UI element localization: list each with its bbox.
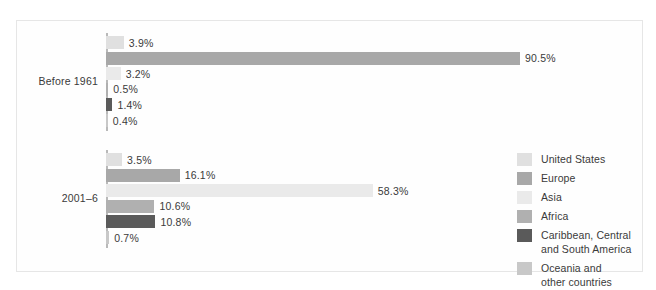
category-label: Before 1961 (17, 75, 98, 87)
bar (106, 67, 121, 80)
bar-value-label: 0.5% (113, 83, 138, 95)
bar (106, 184, 373, 197)
bar-value-label: 1.4% (117, 99, 142, 111)
bar-value-label: 0.7% (114, 232, 139, 244)
bar-value-label: 90.5% (525, 52, 556, 64)
bar-row: 1.4% (106, 98, 626, 111)
legend-item[interactable]: Oceania and other countries (517, 261, 656, 289)
bar (106, 153, 122, 166)
legend-swatch-icon (517, 229, 532, 242)
bar (106, 169, 180, 182)
legend-swatch-icon (517, 153, 532, 166)
legend-item[interactable]: Caribbean, Central and South America (517, 228, 656, 256)
legend-label: Oceania and other countries (541, 261, 612, 289)
legend-label: Africa (541, 209, 568, 223)
category-label: 2001–6 (17, 192, 98, 204)
chart-legend: United StatesEuropeAsiaAfricaCaribbean, … (517, 152, 656, 290)
bar-row: 3.2% (106, 67, 626, 80)
bar-row: 90.5% (106, 52, 626, 65)
bar (106, 114, 108, 127)
bar (106, 36, 124, 49)
bar-value-label: 3.9% (129, 37, 154, 49)
bar-value-label: 3.5% (127, 154, 152, 166)
bar (106, 215, 155, 228)
bar-value-label: 58.3% (378, 185, 409, 197)
bar-value-label: 10.8% (160, 216, 191, 228)
legend-item[interactable]: Asia (517, 190, 656, 204)
legend-label: United States (541, 152, 605, 166)
bar (106, 200, 154, 213)
legend-item[interactable]: Europe (517, 171, 656, 185)
bar (106, 52, 520, 65)
bar-row: 0.4% (106, 114, 626, 127)
legend-label: Asia (541, 190, 562, 204)
legend-swatch-icon (517, 262, 532, 275)
legend-item[interactable]: United States (517, 152, 656, 166)
bar-row: 3.9% (106, 36, 626, 49)
bar-row: 0.5% (106, 83, 626, 96)
bar-value-label: 0.4% (113, 115, 138, 127)
legend-label: Europe (541, 171, 575, 185)
bar-value-label: 16.1% (185, 169, 216, 181)
bar (106, 83, 108, 96)
legend-item[interactable]: Africa (517, 209, 656, 223)
legend-swatch-icon (517, 172, 532, 185)
bar-value-label: 10.6% (159, 200, 190, 212)
bar (106, 231, 109, 244)
bar-value-label: 3.2% (126, 68, 151, 80)
bar (106, 98, 112, 111)
legend-swatch-icon (517, 191, 532, 204)
legend-label: Caribbean, Central and South America (541, 228, 631, 256)
chart-frame: Before 19613.9%90.5%3.2%0.5%1.4%0.4%2001… (16, 20, 643, 272)
legend-swatch-icon (517, 210, 532, 223)
